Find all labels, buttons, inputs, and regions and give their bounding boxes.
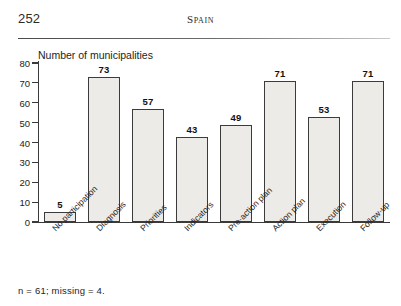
x-axis-line bbox=[38, 222, 390, 223]
y-axis-tick-mark bbox=[32, 142, 38, 143]
y-axis-tick-label: 60 bbox=[8, 97, 30, 108]
bar[interactable] bbox=[264, 81, 296, 222]
y-axis-tick-mark bbox=[32, 82, 38, 83]
bar-group[interactable]: 73 bbox=[88, 77, 120, 222]
y-axis-tick-label: 80 bbox=[8, 58, 30, 69]
y-axis-tick-mark bbox=[32, 221, 38, 222]
y-axis-tick-mark bbox=[32, 102, 38, 103]
y-axis-line bbox=[38, 61, 39, 223]
bar-value-label: 57 bbox=[132, 96, 164, 107]
y-axis-tick-label: 50 bbox=[8, 117, 30, 128]
running-head-title: Spain bbox=[0, 13, 401, 25]
bar-group[interactable]: 71 bbox=[352, 81, 384, 222]
page-header: 252 Spain bbox=[0, 0, 401, 42]
y-axis-tick-mark bbox=[32, 202, 38, 203]
bar-value-label: 71 bbox=[264, 68, 296, 79]
y-axis-tick-label: 10 bbox=[8, 197, 30, 208]
bar-value-label: 73 bbox=[88, 64, 120, 75]
bar-value-label: 71 bbox=[352, 68, 384, 79]
y-axis-tick-label: 0 bbox=[8, 217, 30, 228]
bar-chart-figure: Number of municipalities 010203040506070… bbox=[0, 42, 401, 306]
header-divider bbox=[18, 38, 390, 39]
y-axis-tick-label: 40 bbox=[8, 137, 30, 148]
y-axis-tick-mark bbox=[32, 162, 38, 163]
y-axis-tick-mark bbox=[32, 182, 38, 183]
y-axis-tick-label: 70 bbox=[8, 77, 30, 88]
bar-value-label: 49 bbox=[220, 112, 252, 123]
bar[interactable] bbox=[352, 81, 384, 222]
bar[interactable] bbox=[88, 77, 120, 222]
figure-footnote: n = 61; missing = 4. bbox=[18, 285, 105, 296]
y-axis-tick-label: 20 bbox=[8, 177, 30, 188]
chart-axis-title: Number of municipalities bbox=[38, 49, 153, 61]
bar-value-label: 53 bbox=[308, 104, 340, 115]
bar-value-label: 43 bbox=[176, 124, 208, 135]
bar-group[interactable]: 71 bbox=[264, 81, 296, 222]
y-axis-tick-label: 30 bbox=[8, 157, 30, 168]
y-axis-tick-mark bbox=[32, 62, 38, 63]
y-axis-tick-mark bbox=[32, 122, 38, 123]
